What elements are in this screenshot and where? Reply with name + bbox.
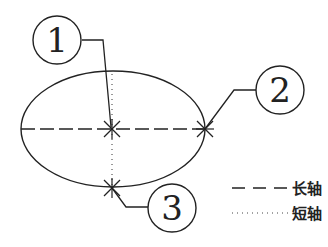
legend-minor-axis-label: 短轴 — [292, 205, 322, 223]
callout-2: 2 — [205, 66, 304, 129]
callout-1-leader — [82, 40, 111, 127]
callout-3-leader — [112, 188, 148, 207]
callout-3: 3 — [112, 184, 196, 232]
legend-major-axis-label: 长轴 — [292, 180, 322, 198]
legend: 长轴 短轴 — [232, 180, 322, 223]
ellipse-diagram: 1 2 3 长轴 短轴 — [0, 0, 328, 247]
callout-3-label: 3 — [161, 188, 183, 228]
callout-1-label: 1 — [46, 20, 68, 60]
callout-2-leader — [205, 90, 256, 129]
callout-2-label: 2 — [269, 70, 291, 110]
